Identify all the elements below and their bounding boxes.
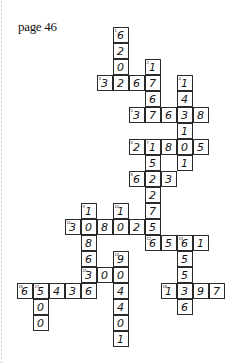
cell-digit: 0: [98, 269, 112, 282]
cell-digit: 2: [130, 141, 144, 154]
grid-cell: 8: [193, 107, 209, 123]
grid-cell: 101: [113, 203, 129, 219]
cell-digit: 5: [146, 221, 160, 234]
cell-digit: 6: [82, 253, 96, 266]
grid-cell: 6: [129, 75, 145, 91]
cell-digit: 3: [82, 269, 96, 282]
cell-digit: 6: [146, 237, 160, 250]
cell-digit: 0: [34, 317, 48, 330]
cell-digit: 1: [82, 205, 96, 218]
cell-digit: 3: [178, 109, 192, 122]
cell-digit: 4: [114, 285, 128, 298]
cell-digit: 6: [178, 301, 192, 314]
grid-cell: 4: [113, 283, 129, 299]
grid-cell: 0: [113, 315, 129, 331]
grid-cell: 0: [97, 267, 113, 283]
grid-cell: 41: [177, 75, 193, 91]
cell-digit: 1: [146, 61, 160, 74]
cell-digit: 7: [146, 109, 160, 122]
grid-cell: 62: [129, 139, 145, 155]
cell-digit: 4: [50, 285, 64, 298]
grid-cell: 86: [129, 171, 145, 187]
cell-digit: 2: [130, 221, 144, 234]
cross-number-grid: 1620213326741645376381627180551862329110…: [0, 0, 238, 364]
grid-cell: 4: [177, 91, 193, 107]
cell-digit: 6: [82, 285, 96, 298]
cell-digit: 1: [114, 333, 128, 346]
grid-cell: 3: [177, 283, 193, 299]
grid-cell: 53: [129, 107, 145, 123]
cell-digit: 5: [178, 269, 192, 282]
grid-cell: 6: [177, 299, 193, 315]
grid-cell: 5: [161, 235, 177, 251]
cell-digit: 3: [178, 285, 192, 298]
grid-cell: 166: [17, 283, 33, 299]
grid-cell: 7: [145, 203, 161, 219]
cell-digit: 6: [178, 237, 192, 250]
cell-digit: 0: [114, 269, 128, 282]
grid-cell: 33: [97, 75, 113, 91]
grid-cell: 0: [113, 219, 129, 235]
cell-digit: 9: [194, 285, 208, 298]
cell-digit: 0: [114, 61, 128, 74]
cell-digit: 5: [146, 157, 160, 170]
grid-cell: 2: [145, 187, 161, 203]
cell-digit: 5: [194, 141, 208, 154]
grid-cell: 2: [145, 171, 161, 187]
grid-cell: 0: [177, 139, 193, 155]
cell-digit: 4: [178, 93, 192, 106]
cell-digit: 3: [66, 221, 80, 234]
cell-digit: 4: [114, 301, 128, 314]
cell-digit: 8: [98, 221, 112, 234]
grid-cell: 1: [193, 235, 209, 251]
cell-digit: 6: [130, 77, 144, 90]
cell-digit: 6: [130, 173, 144, 186]
grid-cell: 4: [49, 283, 65, 299]
grid-cell: 7: [145, 107, 161, 123]
grid-cell: 9: [193, 283, 209, 299]
cell-digit: 2: [114, 45, 128, 58]
cell-digit: 2: [114, 77, 128, 90]
grid-cell: 5: [177, 267, 193, 283]
grid-cell: 2: [113, 75, 129, 91]
grid-cell: 3: [177, 107, 193, 123]
cell-digit: 3: [98, 77, 112, 90]
grid-cell: 1: [113, 331, 129, 347]
grid-cell: 8: [161, 139, 177, 155]
cell-digit: 6: [18, 285, 32, 298]
grid-cell: 8: [81, 235, 97, 251]
grid-cell: 126: [145, 235, 161, 251]
cell-digit: 7: [210, 285, 224, 298]
cell-digit: 7: [146, 77, 160, 90]
grid-cell: 8: [97, 219, 113, 235]
cell-digit: 1: [114, 205, 128, 218]
grid-cell: 113: [65, 219, 81, 235]
grid-cell: 0: [113, 59, 129, 75]
grid-cell: 1: [177, 123, 193, 139]
grid-cell: 2: [129, 219, 145, 235]
cell-digit: 3: [66, 285, 80, 298]
cell-digit: 2: [146, 173, 160, 186]
grid-cell: 5: [177, 251, 193, 267]
grid-cell: 2: [113, 43, 129, 59]
grid-cell: 7: [209, 283, 225, 299]
cell-digit: 0: [178, 141, 192, 154]
cell-digit: 8: [82, 237, 96, 250]
cell-digit: 1: [178, 125, 192, 138]
cell-digit: 3: [162, 173, 176, 186]
cell-digit: 6: [114, 29, 128, 42]
cell-digit: 0: [114, 221, 128, 234]
grid-cell: 7: [145, 75, 161, 91]
cell-digit: 1: [146, 141, 160, 154]
cell-digit: 5: [34, 285, 48, 298]
grid-cell: 181: [161, 283, 177, 299]
cell-digit: 8: [194, 109, 208, 122]
grid-cell: 5: [145, 155, 161, 171]
grid-cell: 3: [65, 283, 81, 299]
grid-cell: 175: [33, 283, 49, 299]
grid-cell: 0: [81, 219, 97, 235]
grid-cell: 71: [145, 139, 161, 155]
grid-cell: 1: [177, 155, 193, 171]
cell-digit: 1: [178, 157, 192, 170]
grid-cell: 0: [113, 267, 129, 283]
